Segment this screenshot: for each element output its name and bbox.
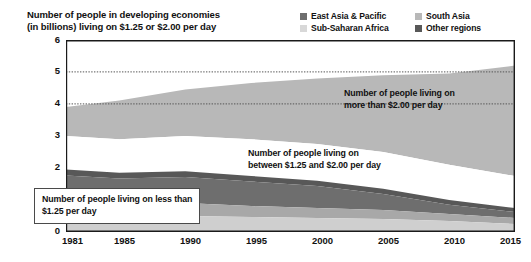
legend-label: East Asia & Pacific (311, 11, 386, 21)
chart-figure: Number of people in developing economies… (0, 0, 531, 262)
legend-item-other-regions: Other regions (415, 23, 528, 33)
y-tick-label-2: 2 (46, 161, 60, 172)
annotation-between-125-200: Number of people living on between $1.25… (248, 148, 381, 171)
legend-label: Sub-Saharan Africa (311, 23, 389, 33)
annotation-below-line-2: $1.25 per day (42, 206, 192, 218)
y-tick-label-0: 0 (46, 225, 60, 236)
y-tick-label-4: 4 (46, 97, 60, 108)
legend-item-sub-saharan-africa: Sub-Saharan Africa (300, 23, 415, 33)
x-tick-label-1985: 1985 (114, 235, 135, 246)
y-tick-label-5: 5 (46, 65, 60, 76)
annotation-between-line-2: between $1.25 and $2.00 per day (248, 160, 381, 172)
x-tick-label-1995: 1995 (246, 235, 267, 246)
legend-swatch-icon (300, 25, 307, 32)
legend-item-east-asia-pacific: East Asia & Pacific (300, 11, 415, 21)
annotation-above-200: Number of people living on more than $2.… (344, 88, 455, 111)
title-line-2: (in billions) living on $1.25 or $2.00 p… (27, 21, 277, 33)
title-line-1: Number of people in developing economies (27, 9, 277, 21)
legend-item-south-asia: South Asia (415, 11, 528, 21)
legend-label: South Asia (426, 11, 470, 21)
x-tick-label-1990: 1990 (180, 235, 201, 246)
annotation-below-line-1: Number of people living on less than (42, 194, 192, 206)
legend-swatch-icon (415, 25, 422, 32)
x-tick-label-2005: 2005 (378, 235, 399, 246)
legend-swatch-icon (300, 13, 307, 20)
page-title: Number of people in developing economies… (27, 9, 277, 32)
y-tick-label-6: 6 (46, 34, 60, 45)
x-tick-label-2000: 2000 (312, 235, 333, 246)
legend-label: Other regions (426, 23, 481, 33)
annotation-above-200-line-2: more than $2.00 per day (344, 100, 455, 112)
annotation-between-line-1: Number of people living on (248, 148, 381, 160)
y-tick-label-3: 3 (46, 129, 60, 140)
legend: East Asia & Pacific South Asia Sub-Sahar… (300, 10, 528, 34)
annotation-below-125: Number of people living on less than $1.… (34, 188, 200, 224)
annotation-above-200-line-1: Number of people living on (344, 88, 455, 100)
x-tick-label-2010: 2010 (444, 235, 465, 246)
x-tick-label-2015: 2015 (500, 235, 521, 246)
legend-swatch-icon (415, 13, 422, 20)
x-tick-label-1981: 1981 (62, 235, 83, 246)
